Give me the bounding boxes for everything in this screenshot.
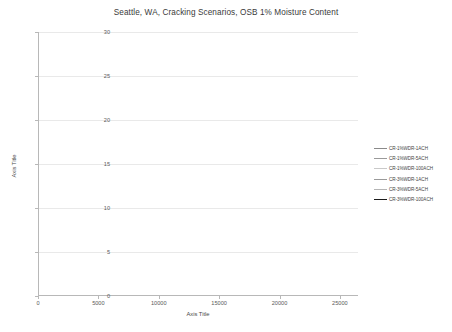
y-tick-label: 10 bbox=[84, 205, 110, 211]
legend-label: CR-3%WDR-5ACH bbox=[389, 187, 428, 192]
x-tick-label: 15000 bbox=[211, 300, 227, 306]
x-tick-label: 5000 bbox=[92, 300, 104, 306]
x-tick-label: 10000 bbox=[151, 300, 167, 306]
legend-label: CR-1%WDR-5ACH bbox=[389, 156, 428, 161]
x-tick-mark bbox=[159, 296, 160, 299]
y-axis-line bbox=[38, 32, 39, 296]
legend-label: CR-1%WDR-1ACH bbox=[389, 146, 428, 151]
x-tick-label: 0 bbox=[36, 300, 39, 306]
legend-item[interactable]: CR-1%WDR-1ACH bbox=[374, 143, 450, 153]
y-tick-label: 0 bbox=[84, 293, 110, 299]
legend-label: CR-1%WDR-100ACH bbox=[389, 166, 433, 171]
legend-swatch bbox=[374, 179, 387, 180]
legend-item[interactable]: CR-1%WDR-100ACH bbox=[374, 164, 450, 174]
y-tick-mark bbox=[35, 252, 38, 253]
y-tick-mark bbox=[35, 32, 38, 33]
x-tick-mark bbox=[38, 296, 39, 299]
y-tick-label: 30 bbox=[84, 29, 110, 35]
legend-swatch bbox=[374, 158, 387, 159]
legend-swatch bbox=[374, 168, 387, 169]
x-tick-mark bbox=[280, 296, 281, 299]
y-tick-label: 5 bbox=[84, 249, 110, 255]
y-tick-label: 15 bbox=[84, 161, 110, 167]
x-axis-title: Axis Title bbox=[38, 311, 358, 317]
x-tick-label: 25000 bbox=[332, 300, 348, 306]
legend-item[interactable]: CR-1%WDR-5ACH bbox=[374, 153, 450, 163]
x-tick-label: 20000 bbox=[272, 300, 288, 306]
x-tick-mark bbox=[340, 296, 341, 299]
y-tick-label: 20 bbox=[84, 117, 110, 123]
legend-label: CR-3%WDR-100ACH bbox=[389, 197, 433, 202]
y-axis-title: Axis Title bbox=[11, 154, 17, 177]
chart-title: Seattle, WA, Cracking Scenarios, OSB 1% … bbox=[0, 8, 452, 17]
legend-item[interactable]: CR-3%WDR-5ACH bbox=[374, 184, 450, 194]
x-tick-mark bbox=[219, 296, 220, 299]
y-tick-mark bbox=[35, 120, 38, 121]
y-tick-mark bbox=[35, 164, 38, 165]
legend-swatch bbox=[374, 189, 387, 190]
legend-item[interactable]: CR-3%WDR-1ACH bbox=[374, 174, 450, 184]
y-tick-label: 25 bbox=[84, 73, 110, 79]
legend-swatch bbox=[374, 148, 387, 149]
legend-item[interactable]: CR-3%WDR-100ACH bbox=[374, 194, 450, 204]
chart-container: Seattle, WA, Cracking Scenarios, OSB 1% … bbox=[0, 0, 452, 332]
legend-swatch bbox=[374, 199, 387, 200]
y-tick-mark bbox=[35, 208, 38, 209]
legend-label: CR-3%WDR-1ACH bbox=[389, 177, 428, 182]
chart-legend: CR-1%WDR-1ACHCR-1%WDR-5ACHCR-1%WDR-100AC… bbox=[374, 143, 450, 205]
y-tick-mark bbox=[35, 76, 38, 77]
